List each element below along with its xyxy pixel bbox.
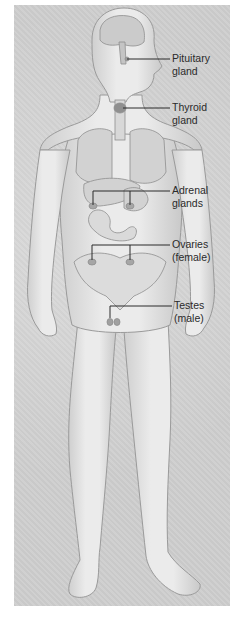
label-ovaries: Ovaries (female) [172, 238, 211, 264]
label-line: Pituitary [172, 52, 210, 65]
label-line: Adrenal [172, 184, 208, 197]
label-thyroid-gland: Thyroid gland [172, 101, 207, 127]
label-line: (male) [174, 312, 204, 325]
label-line: glands [172, 197, 208, 210]
label-line: (female) [172, 251, 211, 264]
label-line: Ovaries [172, 238, 211, 251]
label-line: Thyroid [172, 101, 207, 114]
label-line: Testes [174, 299, 204, 312]
label-testes: Testes (male) [174, 299, 204, 325]
label-pituitary-gland: Pituitary gland [172, 52, 210, 78]
label-line: gland [172, 65, 210, 78]
label-adrenal-glands: Adrenal glands [172, 184, 208, 210]
label-line: gland [172, 114, 207, 127]
